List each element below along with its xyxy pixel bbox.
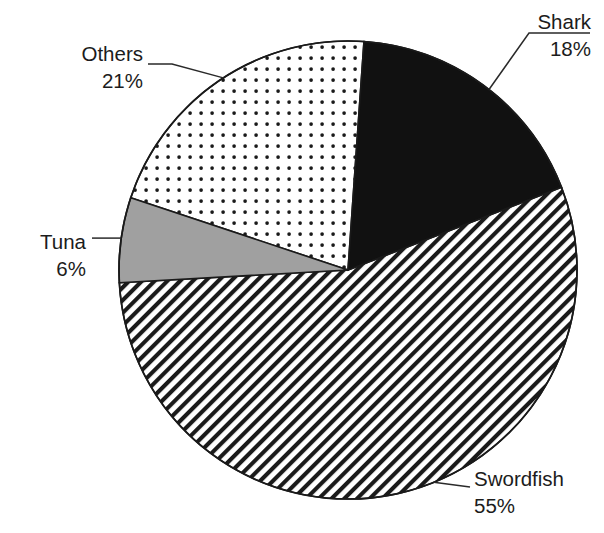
slice-label-others-value: 21% bbox=[18, 67, 143, 94]
leader-line-swordfish bbox=[434, 482, 470, 487]
slice-label-tuna: Tuna 6% bbox=[4, 228, 86, 282]
slice-label-swordfish-name: Swordfish bbox=[474, 467, 564, 490]
slice-label-others-name: Others bbox=[81, 42, 143, 65]
slice-label-shark-value: 18% bbox=[471, 35, 591, 62]
slice-label-tuna-name: Tuna bbox=[40, 230, 86, 253]
slice-label-shark: Shark 18% bbox=[471, 8, 591, 62]
slice-label-swordfish: Swordfish 55% bbox=[474, 465, 600, 519]
slice-label-shark-name: Shark bbox=[537, 10, 591, 33]
slice-label-others: Others 21% bbox=[18, 40, 143, 94]
leader-line-others bbox=[148, 64, 223, 78]
slice-label-tuna-value: 6% bbox=[4, 255, 86, 282]
pie-chart-figure: Shark 18% Others 21% Tuna 6% Swordfish 5… bbox=[0, 0, 604, 533]
slice-label-swordfish-value: 55% bbox=[474, 492, 600, 519]
